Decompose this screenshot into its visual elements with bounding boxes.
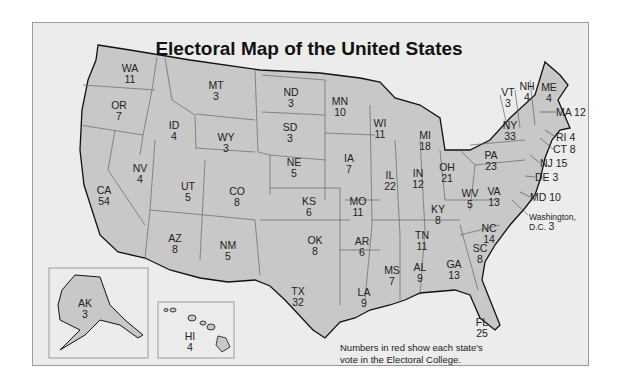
state-label-vt: VT3 [501,87,514,109]
state-label-hi: HI4 [185,331,196,353]
state-label-ok: OK8 [307,235,322,257]
state-label-wv: WV5 [462,188,479,210]
map-title: Electoral Map of the United States [0,38,618,60]
state-label-ks: KS6 [302,196,316,218]
state-label-la: LA9 [358,287,371,309]
state-label-nv: NV4 [133,163,148,185]
state-label-mi: MI18 [419,130,431,152]
state-label-sc: SC8 [473,243,488,265]
state-label-or: OR7 [111,100,127,122]
state-label-ne: NE5 [287,157,302,179]
state-label-mt: MT3 [208,80,223,102]
state-label-az: AZ8 [168,233,181,255]
state-label-al: AL9 [414,262,427,284]
state-label-nc: NC14 [481,223,496,245]
state-label-nm: NM5 [220,240,236,262]
state-label-wy: WY3 [218,132,235,154]
state-label-va: VA13 [487,186,500,208]
state-label-mn: MN10 [332,96,348,118]
state-label-mo: MO11 [350,196,367,218]
state-label-ak: AK3 [78,298,92,320]
state-label-me: ME4 [541,82,557,104]
state-label-ri: RI 4 [556,132,575,143]
state-label-nh: NH4 [519,81,534,103]
state-label-nj: NJ 15 [540,158,567,169]
state-label-ut: UT5 [181,181,195,203]
state-label-tn: TN11 [415,230,429,252]
state-label-il: IL22 [384,170,396,192]
state-label-wi: WI11 [374,118,387,140]
state-label-ny: NY33 [503,120,518,142]
state-label-wa: WA11 [122,63,139,85]
state-label-ga: GA13 [446,259,461,281]
state-label-de: DE 3 [535,172,558,183]
state-label-ar: AR6 [355,236,370,258]
state-label-oh: OH21 [439,162,455,184]
state-label-ms: MS7 [384,265,400,287]
state-label-md: MD 10 [530,192,561,203]
state-label-nd: ND3 [283,87,298,109]
state-label-pa: PA23 [484,150,497,172]
state-label-sd: SD3 [283,122,298,144]
state-label-ma: MA 12 [556,107,586,118]
state-label-tx: TX32 [291,286,304,308]
state-label-co: CO8 [229,186,245,208]
state-label-ca: CA54 [97,185,112,207]
state-label-fl: FL25 [476,317,488,339]
state-label-ia: IA7 [344,153,354,175]
state-label-ct: CT 8 [553,144,576,155]
dc-label: Washington, D.C. 3 [529,213,576,232]
state-label-id: ID4 [169,120,180,142]
state-label-in: IN12 [412,168,424,190]
state-label-ky: KY8 [431,204,445,226]
legend-note: Numbers in red show each state'svote in … [340,342,483,366]
